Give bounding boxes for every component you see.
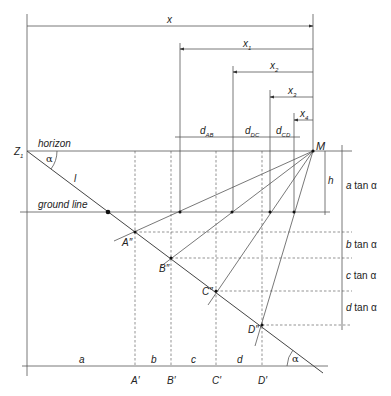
ray-b (160, 151, 313, 267)
point-a-dot (134, 231, 137, 234)
label-b-prime: B′ (167, 375, 177, 386)
label-a-double-prime: A″ (121, 237, 133, 248)
label-x3: x3 (287, 85, 297, 98)
label-d-double-prime: D″ (248, 324, 259, 335)
ray-c (208, 151, 313, 305)
label-dab: dAB (200, 125, 214, 138)
point-d-dot (261, 324, 264, 327)
point-m-dot (311, 149, 314, 152)
line-l (27, 151, 323, 373)
label-a-prime: A′ (130, 375, 141, 386)
ground-intersection-dot (106, 210, 111, 215)
label-alpha-top: α (46, 153, 53, 164)
label-c-double-prime: C″ (202, 286, 213, 297)
ground-dot-1 (179, 211, 182, 214)
label-d-tan-alpha: d tan α (346, 302, 377, 313)
label-segment-d: d (237, 354, 243, 365)
label-x: x (166, 14, 173, 25)
label-m: M (316, 140, 326, 152)
label-d-prime: D′ (258, 375, 268, 386)
label-h: h (328, 175, 334, 186)
label-c-prime: C′ (212, 375, 222, 386)
label-segment-a: a (79, 354, 85, 365)
label-alpha-bottom: α (292, 353, 299, 364)
label-l: l (74, 173, 77, 184)
label-a-tan-alpha: a tan α (346, 180, 377, 191)
label-b-double-prime: B″ (159, 263, 170, 274)
label-x2: x2 (269, 60, 279, 73)
label-segment-b: b (151, 354, 157, 365)
ground-dot-3 (269, 211, 272, 214)
point-b-dot (170, 257, 173, 260)
label-ground-line: ground line (38, 199, 88, 210)
label-dcd: dCD (276, 125, 291, 138)
label-x4: x4 (299, 108, 309, 121)
label-z1: Z1 (13, 146, 23, 159)
perspective-diagram: x x1 x2 x3 x4 dAB dDC dCD M Z1 horizon α… (0, 0, 391, 396)
label-horizon: horizon (38, 138, 71, 149)
ray-a (114, 151, 313, 241)
point-c-dot (215, 290, 218, 293)
label-c-tan-alpha: c tan α (346, 270, 376, 281)
ground-dot-4 (293, 211, 296, 214)
label-segment-c: c (191, 354, 196, 365)
label-b-tan-alpha: b tan α (346, 239, 377, 250)
ground-dot-2 (231, 211, 234, 214)
label-ddc: dDC (245, 125, 260, 138)
ray-d (255, 151, 313, 346)
